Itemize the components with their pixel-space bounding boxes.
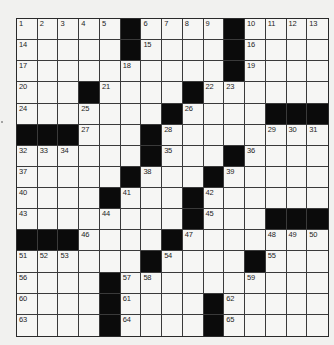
white-square[interactable] bbox=[266, 188, 287, 209]
white-square[interactable]: 49 bbox=[287, 230, 308, 251]
white-square[interactable] bbox=[287, 61, 308, 82]
white-square[interactable] bbox=[121, 230, 142, 251]
white-square[interactable]: 3 bbox=[58, 19, 79, 40]
white-square[interactable] bbox=[79, 40, 100, 61]
white-square[interactable] bbox=[204, 125, 225, 146]
white-square[interactable] bbox=[266, 61, 287, 82]
white-square[interactable]: 23 bbox=[224, 82, 245, 103]
white-square[interactable] bbox=[58, 315, 79, 336]
white-square[interactable] bbox=[141, 294, 162, 315]
white-square[interactable] bbox=[224, 188, 245, 209]
white-square[interactable]: 19 bbox=[245, 61, 266, 82]
white-square[interactable]: 15 bbox=[141, 40, 162, 61]
white-square[interactable] bbox=[224, 273, 245, 294]
white-square[interactable]: 44 bbox=[100, 209, 121, 230]
white-square[interactable]: 33 bbox=[38, 146, 59, 167]
white-square[interactable]: 17 bbox=[17, 61, 38, 82]
white-square[interactable] bbox=[307, 167, 328, 188]
white-square[interactable]: 20 bbox=[17, 82, 38, 103]
white-square[interactable] bbox=[266, 273, 287, 294]
white-square[interactable]: 38 bbox=[141, 167, 162, 188]
white-square[interactable]: 42 bbox=[204, 188, 225, 209]
white-square[interactable]: 34 bbox=[58, 146, 79, 167]
white-square[interactable]: 22 bbox=[204, 82, 225, 103]
white-square[interactable]: 32 bbox=[17, 146, 38, 167]
white-square[interactable]: 60 bbox=[17, 294, 38, 315]
white-square[interactable] bbox=[79, 273, 100, 294]
white-square[interactable]: 41 bbox=[121, 188, 142, 209]
white-square[interactable] bbox=[266, 146, 287, 167]
white-square[interactable]: 18 bbox=[121, 61, 142, 82]
white-square[interactable] bbox=[58, 61, 79, 82]
white-square[interactable]: 58 bbox=[141, 273, 162, 294]
white-square[interactable] bbox=[287, 82, 308, 103]
white-square[interactable] bbox=[79, 315, 100, 336]
white-square[interactable]: 27 bbox=[79, 125, 100, 146]
white-square[interactable]: 29 bbox=[266, 125, 287, 146]
white-square[interactable]: 6 bbox=[141, 19, 162, 40]
white-square[interactable]: 4 bbox=[79, 19, 100, 40]
white-square[interactable] bbox=[162, 167, 183, 188]
white-square[interactable]: 55 bbox=[266, 251, 287, 272]
white-square[interactable]: 48 bbox=[266, 230, 287, 251]
white-square[interactable]: 25 bbox=[79, 104, 100, 125]
white-square[interactable]: 35 bbox=[162, 146, 183, 167]
white-square[interactable]: 16 bbox=[245, 40, 266, 61]
white-square[interactable] bbox=[204, 61, 225, 82]
white-square[interactable]: 5 bbox=[100, 19, 121, 40]
white-square[interactable]: 53 bbox=[58, 251, 79, 272]
white-square[interactable] bbox=[100, 104, 121, 125]
white-square[interactable] bbox=[307, 251, 328, 272]
white-square[interactable] bbox=[162, 188, 183, 209]
white-square[interactable] bbox=[79, 167, 100, 188]
white-square[interactable] bbox=[204, 273, 225, 294]
white-square[interactable] bbox=[266, 294, 287, 315]
white-square[interactable] bbox=[204, 40, 225, 61]
white-square[interactable] bbox=[141, 82, 162, 103]
white-square[interactable] bbox=[245, 188, 266, 209]
white-square[interactable] bbox=[307, 273, 328, 294]
white-square[interactable]: 40 bbox=[17, 188, 38, 209]
white-square[interactable] bbox=[162, 82, 183, 103]
white-square[interactable] bbox=[183, 294, 204, 315]
white-square[interactable] bbox=[58, 82, 79, 103]
white-square[interactable] bbox=[141, 188, 162, 209]
white-square[interactable] bbox=[287, 188, 308, 209]
white-square[interactable] bbox=[245, 125, 266, 146]
white-square[interactable] bbox=[287, 315, 308, 336]
white-square[interactable] bbox=[58, 167, 79, 188]
white-square[interactable]: 21 bbox=[100, 82, 121, 103]
white-square[interactable]: 11 bbox=[266, 19, 287, 40]
white-square[interactable] bbox=[100, 167, 121, 188]
white-square[interactable] bbox=[38, 294, 59, 315]
white-square[interactable] bbox=[121, 209, 142, 230]
white-square[interactable]: 62 bbox=[224, 294, 245, 315]
white-square[interactable] bbox=[287, 273, 308, 294]
white-square[interactable] bbox=[121, 104, 142, 125]
white-square[interactable] bbox=[38, 104, 59, 125]
white-square[interactable] bbox=[266, 167, 287, 188]
white-square[interactable] bbox=[245, 315, 266, 336]
white-square[interactable]: 39 bbox=[224, 167, 245, 188]
white-square[interactable] bbox=[162, 40, 183, 61]
white-square[interactable] bbox=[121, 251, 142, 272]
white-square[interactable] bbox=[58, 294, 79, 315]
white-square[interactable]: 7 bbox=[162, 19, 183, 40]
white-square[interactable] bbox=[307, 146, 328, 167]
white-square[interactable] bbox=[58, 104, 79, 125]
white-square[interactable]: 2 bbox=[38, 19, 59, 40]
white-square[interactable] bbox=[38, 273, 59, 294]
white-square[interactable] bbox=[38, 315, 59, 336]
white-square[interactable]: 13 bbox=[307, 19, 328, 40]
white-square[interactable] bbox=[245, 230, 266, 251]
white-square[interactable]: 65 bbox=[224, 315, 245, 336]
white-square[interactable] bbox=[224, 251, 245, 272]
white-square[interactable] bbox=[224, 230, 245, 251]
white-square[interactable] bbox=[307, 40, 328, 61]
white-square[interactable] bbox=[183, 273, 204, 294]
white-square[interactable] bbox=[307, 315, 328, 336]
white-square[interactable]: 46 bbox=[79, 230, 100, 251]
white-square[interactable] bbox=[245, 104, 266, 125]
white-square[interactable] bbox=[58, 40, 79, 61]
white-square[interactable] bbox=[162, 273, 183, 294]
